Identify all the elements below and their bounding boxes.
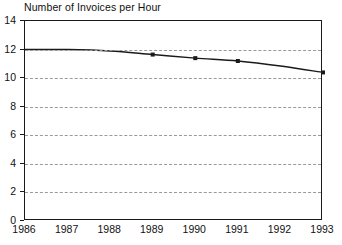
series-data-point bbox=[193, 56, 197, 60]
x-axis-tick-label: 1988 bbox=[87, 224, 131, 235]
x-axis-tick-label: 1987 bbox=[45, 224, 89, 235]
y-axis-tick bbox=[20, 77, 24, 78]
plot-inner bbox=[25, 21, 321, 219]
y-axis-tick bbox=[20, 49, 24, 50]
series-line bbox=[25, 49, 323, 72]
gridline bbox=[25, 135, 321, 136]
y-axis-tick bbox=[20, 106, 24, 107]
x-axis-tick-label: 1993 bbox=[300, 224, 342, 235]
chart-title: Number of Invoices per Hour bbox=[24, 1, 161, 14]
line-series-invoices-per-hour bbox=[25, 21, 323, 221]
series-data-point bbox=[151, 53, 155, 57]
gridline bbox=[25, 50, 321, 51]
plot-area bbox=[24, 20, 322, 220]
gridline bbox=[25, 78, 321, 79]
chart-figure: Number of Invoices per Hour 02468101214 … bbox=[0, 0, 342, 245]
y-axis-tick-label: 8 bbox=[0, 101, 20, 111]
series-data-point bbox=[236, 59, 240, 63]
gridline bbox=[25, 164, 321, 165]
x-axis-tick-label: 1991 bbox=[215, 224, 259, 235]
y-axis-tick-label: 12 bbox=[0, 44, 20, 54]
gridline bbox=[25, 192, 321, 193]
y-axis-tick bbox=[20, 20, 24, 21]
series-data-point bbox=[321, 70, 325, 74]
x-axis-tick-label: 1986 bbox=[2, 224, 46, 235]
y-axis-tick bbox=[20, 163, 24, 164]
gridline bbox=[25, 107, 321, 108]
y-axis-tick-label: 4 bbox=[0, 158, 20, 168]
x-axis-tick-label: 1990 bbox=[172, 224, 216, 235]
y-axis-tick-label: 6 bbox=[0, 129, 20, 139]
y-axis-tick-label: 14 bbox=[0, 15, 20, 25]
y-axis-tick bbox=[20, 134, 24, 135]
y-axis-tick-label: 2 bbox=[0, 186, 20, 196]
x-axis-tick-label: 1989 bbox=[130, 224, 174, 235]
y-axis-tick bbox=[20, 220, 24, 221]
x-axis-tick-label: 1992 bbox=[257, 224, 301, 235]
y-axis-tick bbox=[20, 191, 24, 192]
y-axis-tick-label: 10 bbox=[0, 72, 20, 82]
